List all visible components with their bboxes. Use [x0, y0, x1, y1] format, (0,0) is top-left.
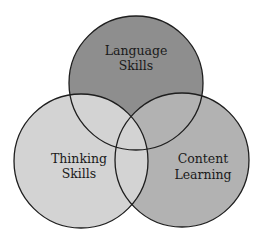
label-content-line1: Content: [178, 151, 229, 166]
venn-diagram: Language Skills Thinking Skills Content …: [0, 0, 267, 242]
label-language-line2: Skills: [119, 58, 154, 73]
label-thinking-line1: Thinking: [51, 151, 107, 166]
label-content-line2: Learning: [174, 167, 231, 182]
label-language-line1: Language: [105, 43, 168, 58]
label-thinking-line2: Skills: [62, 166, 97, 181]
